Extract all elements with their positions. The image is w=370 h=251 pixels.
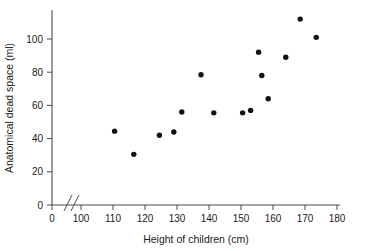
x-tick-label: 110 — [105, 213, 121, 224]
x-tick-label: 0 — [49, 213, 55, 224]
data-point — [283, 55, 288, 60]
data-point — [314, 35, 319, 40]
data-point — [240, 110, 245, 115]
data-point — [211, 110, 216, 115]
y-tick-label: 60 — [32, 100, 44, 111]
x-tick-label: 170 — [297, 213, 314, 224]
y-tick-label: 40 — [32, 133, 44, 144]
chart-canvas: 020406080100 010011012013014015016017018… — [0, 0, 370, 251]
scatter-plot-figure: 020406080100 010011012013014015016017018… — [0, 0, 370, 251]
data-point — [171, 129, 176, 134]
x-tick-label: 120 — [137, 213, 154, 224]
data-point — [198, 72, 203, 77]
data-point — [259, 73, 264, 78]
x-tick-label: 160 — [265, 213, 282, 224]
data-point — [112, 128, 117, 133]
data-point — [266, 96, 271, 101]
data-point — [248, 108, 253, 113]
y-tick-label: 100 — [26, 34, 43, 45]
x-tick-label: 140 — [201, 213, 218, 224]
x-tick-label: 150 — [233, 213, 250, 224]
data-point — [179, 109, 184, 114]
data-point — [157, 133, 162, 138]
x-axis-title: Height of children (cm) — [143, 233, 249, 245]
x-tick-label: 180 — [329, 213, 346, 224]
x-tick-label: 130 — [169, 213, 186, 224]
y-tick-label: 0 — [37, 200, 43, 211]
y-tick-label: 20 — [32, 166, 44, 177]
data-point — [298, 16, 303, 21]
data-point — [256, 50, 261, 55]
y-tick-label: 80 — [32, 67, 44, 78]
y-axis-title: Anatomical dead space (ml) — [3, 43, 15, 173]
x-tick-label: 100 — [73, 213, 90, 224]
data-point — [131, 152, 136, 157]
